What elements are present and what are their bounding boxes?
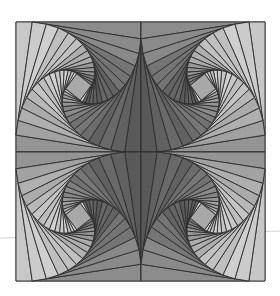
- block-bottom-left: [16, 152, 141, 281]
- quilt-blocks: [16, 22, 265, 281]
- block-top-right: [141, 22, 265, 152]
- block-bottom-right: [141, 152, 265, 281]
- twisted-squares-artwork: [0, 0, 280, 296]
- block-top-left: [16, 22, 141, 152]
